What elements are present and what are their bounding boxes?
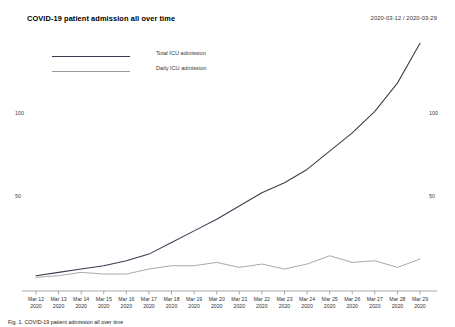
- x-tick-year: 2020: [51, 303, 67, 310]
- x-axis-tick-label: Mar 162020: [118, 296, 134, 311]
- plot-area: [0, 0, 455, 327]
- x-tick-day: Mar 18: [163, 296, 179, 302]
- x-tick-day: Mar 20: [209, 296, 225, 302]
- x-axis-tick-label: Mar 282020: [389, 296, 405, 311]
- x-axis-tick-label: Mar 172020: [141, 296, 157, 311]
- x-tick-day: Mar 19: [186, 296, 202, 302]
- x-tick-day: Mar 26: [344, 296, 360, 302]
- x-tick-year: 2020: [231, 303, 247, 310]
- x-axis-tick-label: Mar 212020: [231, 296, 247, 311]
- y-axis-tick-right: 50: [429, 193, 435, 199]
- y-axis-tick-left: 100: [15, 110, 24, 116]
- x-tick-year: 2020: [254, 303, 270, 310]
- x-tick-year: 2020: [209, 303, 225, 310]
- x-tick-day: Mar 17: [141, 296, 157, 302]
- x-tick-day: Mar 13: [51, 296, 67, 302]
- x-tick-day: Mar 27: [367, 296, 383, 302]
- x-axis-tick-label: Mar 292020: [412, 296, 428, 311]
- plot-svg: [0, 0, 455, 327]
- x-tick-day: Mar 22: [254, 296, 270, 302]
- series-line-total: [36, 43, 420, 275]
- x-tick-day: Mar 16: [118, 296, 134, 302]
- x-axis-tick-label: Mar 252020: [322, 296, 338, 311]
- x-tick-year: 2020: [96, 303, 112, 310]
- x-axis-tick-label: Mar 122020: [28, 296, 44, 311]
- x-axis-tick-label: Mar 262020: [344, 296, 360, 311]
- y-axis-tick-right: 100: [429, 110, 438, 116]
- x-tick-day: Mar 15: [96, 296, 112, 302]
- x-axis-tick-label: Mar 272020: [367, 296, 383, 311]
- x-tick-year: 2020: [344, 303, 360, 310]
- x-tick-day: Mar 24: [299, 296, 315, 302]
- series-line-daily: [36, 256, 420, 278]
- x-tick-day: Mar 28: [389, 296, 405, 302]
- x-axis-tick-label: Mar 202020: [209, 296, 225, 311]
- x-tick-year: 2020: [73, 303, 89, 310]
- x-axis-tick-label: Mar 242020: [299, 296, 315, 311]
- x-axis-tick-label: Mar 192020: [186, 296, 202, 311]
- x-tick-year: 2020: [186, 303, 202, 310]
- x-tick-day: Mar 12: [28, 296, 44, 302]
- x-tick-day: Mar 25: [322, 296, 338, 302]
- x-axis-tick-label: Mar 222020: [254, 296, 270, 311]
- chart-figure: COVID-19 patient admission all over time…: [0, 0, 455, 327]
- x-axis-tick-label: Mar 142020: [73, 296, 89, 311]
- x-tick-year: 2020: [389, 303, 405, 310]
- x-tick-year: 2020: [118, 303, 134, 310]
- x-tick-year: 2020: [276, 303, 292, 310]
- x-tick-year: 2020: [322, 303, 338, 310]
- y-axis-tick-left: 50: [15, 193, 21, 199]
- x-tick-day: Mar 14: [73, 296, 89, 302]
- x-axis-tick-label: Mar 182020: [163, 296, 179, 311]
- x-tick-year: 2020: [141, 303, 157, 310]
- figure-caption: Fig. 1. COVID-19 patient admission all o…: [8, 319, 123, 327]
- x-tick-year: 2020: [28, 303, 44, 310]
- x-tick-year: 2020: [367, 303, 383, 310]
- x-tick-year: 2020: [163, 303, 179, 310]
- x-tick-day: Mar 21: [231, 296, 247, 302]
- x-tick-year: 2020: [412, 303, 428, 310]
- x-tick-day: Mar 23: [276, 296, 292, 302]
- x-tick-day: Mar 29: [412, 296, 428, 302]
- x-axis-tick-label: Mar 132020: [51, 296, 67, 311]
- x-axis-tick-label: Mar 232020: [276, 296, 292, 311]
- x-axis-tick-label: Mar 152020: [96, 296, 112, 311]
- x-tick-year: 2020: [299, 303, 315, 310]
